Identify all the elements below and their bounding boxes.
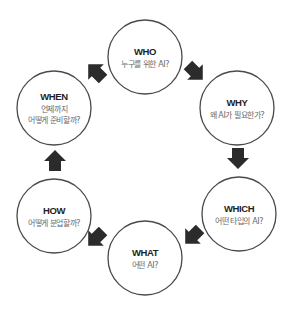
node-circle <box>108 221 182 295</box>
node-subtitle-line-2: 어떻게 준비할까? <box>28 115 80 125</box>
node-circle <box>200 71 274 145</box>
node-who: WHO 누구를 위한 AI? <box>108 20 182 94</box>
node-subtitle: 어떤 AI? <box>132 260 158 270</box>
node-subtitle: 왜 AI가 필요한가? <box>210 110 265 120</box>
node-why: WHY 왜 AI가 필요한가? <box>200 71 274 145</box>
node-what: WHAT 어떤 AI? <box>108 221 182 295</box>
arrow-when-to-who <box>80 56 110 86</box>
node-title: WHO <box>134 46 156 57</box>
node-when: WHEN 언제까지 어떻게 준비할까? <box>17 71 91 145</box>
arrow-up-icon <box>44 150 66 171</box>
node-subtitle: 누구를 위한 AI? <box>121 60 169 69</box>
node-title: WHEN <box>40 91 68 102</box>
node-subtitle-line-1: 언제까지 <box>41 104 68 114</box>
arrow-how-to-when <box>44 150 66 171</box>
node-title: WHICH <box>224 203 255 214</box>
arrow-who-to-why <box>180 57 210 87</box>
arrow-down-right-icon <box>180 57 210 87</box>
node-title: WHAT <box>132 247 159 258</box>
node-which: WHICH 어떤 타입의 AI? <box>202 177 276 251</box>
arrow-why-to-which <box>227 148 249 169</box>
arrow-down-icon <box>227 148 249 169</box>
node-circle <box>202 177 276 251</box>
node-circle <box>108 20 182 94</box>
node-how: HOW 어떻게 분업할까? <box>17 179 91 253</box>
node-subtitle: 어떻게 분업할까? <box>28 218 80 228</box>
ai-planning-cycle-diagram: WHO 누구를 위한 AI? WHY 왜 AI가 필요한가? WHICH 어떤 … <box>0 0 291 311</box>
node-title: WHY <box>227 97 249 108</box>
node-subtitle: 어떤 타입의 AI? <box>215 216 263 226</box>
arrow-up-right-icon <box>80 56 110 86</box>
node-title: HOW <box>43 205 65 216</box>
node-circle <box>17 179 91 253</box>
